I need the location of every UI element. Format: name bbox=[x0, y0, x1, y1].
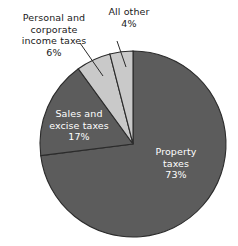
pie-label-sales-and-excise-taxes: Sales and excise taxes 17% bbox=[36, 108, 122, 143]
pie-label-property-taxes: Property taxes 73% bbox=[140, 146, 212, 181]
pie-label-all-other: All other 4% bbox=[86, 6, 172, 29]
pie-chart: Personal and corporate income taxes 6% A… bbox=[0, 0, 238, 246]
